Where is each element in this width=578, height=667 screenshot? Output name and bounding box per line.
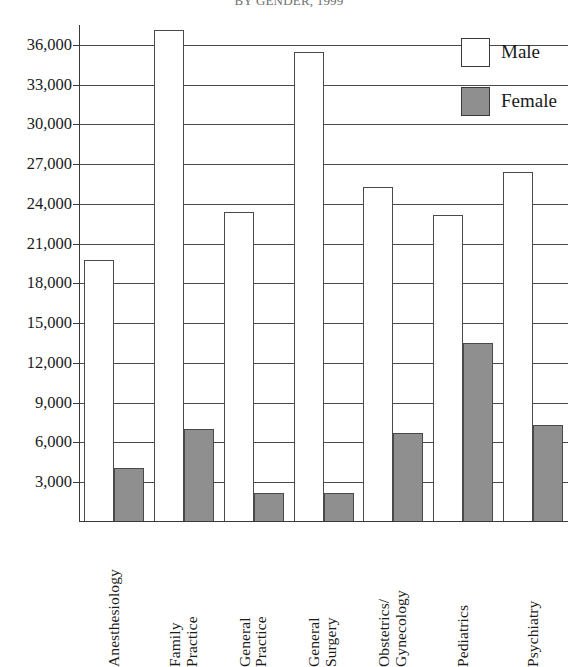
bar-male-1 [154,30,184,522]
bar-female-0 [114,468,144,522]
x-axis-category-labels: AnesthesiologyFamilyPracticeGeneralPract… [79,526,568,667]
bar-female-5 [463,343,493,522]
x-axis-category-line: Surgery [323,526,340,667]
legend-swatch-male [461,38,490,67]
x-axis-category-line: General [307,526,324,667]
y-axis-tick-label: 12,000 [0,355,72,372]
x-axis-line [79,521,568,522]
y-axis-tick-label: 33,000 [0,76,72,93]
bar-male-0 [84,260,114,522]
x-axis-category-3: GeneralSurgery [289,526,359,667]
legend-label: Female [501,86,557,116]
x-axis-category-1: FamilyPractice [149,526,219,667]
y-axis-tick-label: 24,000 [0,196,72,213]
y-axis-tick-label: 3,000 [0,474,72,491]
x-axis-category-line: Obstetrics/ [377,526,394,667]
bar-male-6 [503,172,533,522]
bar-male-3 [294,52,324,522]
x-axis-category-line: Anesthesiology [106,526,123,667]
bar-male-5 [433,215,463,522]
y-axis-tick-label: 30,000 [0,116,72,133]
y-axis-tick-label: 15,000 [0,315,72,332]
bar-female-4 [393,433,423,522]
legend-item-male[interactable]: Male [461,33,578,82]
bar-female-6 [533,425,563,522]
x-axis-category-4: Obstetrics/Gynecology [358,526,428,667]
legend-label: Male [501,37,540,67]
bar-female-3 [324,493,354,522]
legend-item-female[interactable]: Female [461,82,578,131]
x-axis-category-line: Gynecology [393,526,410,667]
chart-legend: MaleFemale [461,33,578,131]
y-axis-tick-label: 36,000 [0,37,72,54]
bar-chart: BY GENDER, 1999 3,0006,0009,00012,00015,… [0,0,578,667]
x-axis-category-line: Family [167,526,184,667]
x-axis-category-line: Practice [184,526,201,667]
legend-swatch-female [461,87,490,116]
y-axis-tick-label: 18,000 [0,275,72,292]
x-axis-category-0: Anesthesiology [79,526,149,667]
y-axis-tick-label: 21,000 [0,235,72,252]
bar-male-4 [363,187,393,522]
x-axis-category-line: Pediatrics [455,526,472,667]
x-axis-category-2: GeneralPractice [219,526,289,667]
y-axis-tick-label: 9,000 [0,394,72,411]
x-axis-category-5: Pediatrics [428,526,498,667]
x-axis-category-line: Practice [254,526,271,667]
x-axis-category-line: Psychiatry [525,526,542,667]
bar-female-2 [254,493,284,522]
chart-title: BY GENDER, 1999 [0,0,578,9]
y-axis-tick-label: 6,000 [0,434,72,451]
bar-female-1 [184,429,214,522]
bar-male-2 [224,212,254,522]
y-axis-tick-labels: 3,0006,0009,00012,00015,00018,00021,0002… [0,0,72,667]
x-axis-category-6: Psychiatry [498,526,568,667]
y-axis-tick-label: 27,000 [0,156,72,173]
x-axis-category-line: General [237,526,254,667]
